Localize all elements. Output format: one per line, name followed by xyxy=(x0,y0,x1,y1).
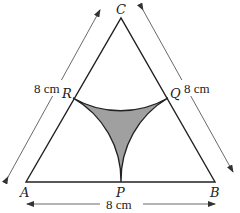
label-b: B xyxy=(209,185,220,200)
shaded-region xyxy=(73,98,168,182)
label-r: R xyxy=(61,86,72,101)
triangle-diagram: 8 cm 8 cm 8 cm C A B P R Q xyxy=(0,0,240,213)
label-q: Q xyxy=(170,86,181,101)
left-side-length: 8 cm xyxy=(34,81,60,96)
label-a: A xyxy=(19,185,29,200)
label-p: P xyxy=(115,185,125,200)
right-side-length: 8 cm xyxy=(184,81,210,96)
label-c: C xyxy=(116,2,126,17)
